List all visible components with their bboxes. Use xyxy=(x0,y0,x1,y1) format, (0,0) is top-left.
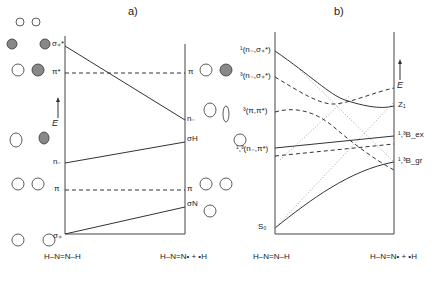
level-pi-star: π* xyxy=(52,68,61,76)
sigma-star-to-n-line xyxy=(65,46,185,120)
singlet-n-sigma-curve xyxy=(275,51,394,107)
triplet-n-sigma-curve xyxy=(275,77,394,104)
panel-b-title: b) xyxy=(334,5,344,17)
correlation-diagram xyxy=(0,0,434,282)
state-Bgr: ¹,³B_gr xyxy=(398,157,422,165)
diabatic-line-3 xyxy=(280,95,350,160)
n-to-sigmaH-line xyxy=(65,142,185,163)
state-S0: S₀ xyxy=(258,223,267,231)
radical-products-b: H–N=N• + •H xyxy=(370,252,417,261)
right-level-sigmaN: σN xyxy=(187,200,198,208)
orbital-sketches xyxy=(7,18,246,246)
diabatic-line-2 xyxy=(300,70,394,162)
level-n-minus: n₋ xyxy=(53,158,61,166)
right-level-pi-top: π xyxy=(188,68,194,76)
ground-state-curve xyxy=(275,162,394,228)
level-pi: π xyxy=(54,185,60,193)
panel-b-energy-label: E xyxy=(397,81,403,90)
state-1-n-sigma: ¹(n₋,σ₊*) xyxy=(240,46,271,54)
level-sigma-plus: σ₊ xyxy=(53,232,62,240)
diabatic-line-1 xyxy=(275,102,394,228)
right-level-sigmaH: σH xyxy=(187,135,198,143)
state-Z1: Z₁ xyxy=(398,101,406,109)
right-level-n: n₋ xyxy=(187,115,195,123)
panel-a-title: a) xyxy=(128,5,138,17)
state-n-pi: ¹,³(n₋,π*) xyxy=(236,145,268,153)
state-3-pi-pi: ³(π,π*) xyxy=(243,107,267,115)
radical-products-a: H–N=N• + •H xyxy=(160,252,207,261)
level-sigma-star: σ₊* xyxy=(52,40,64,48)
state-3-n-sigma: ³(n₋,σ₊*) xyxy=(240,72,271,80)
state-Bex: ¹,³B_ex xyxy=(398,131,424,139)
panel-a-energy-label: E xyxy=(52,119,58,128)
diazene-molecule-b: H–N=N–H xyxy=(253,252,290,261)
right-level-pi: π xyxy=(187,185,193,193)
diazene-molecule-a: H–N=N–H xyxy=(44,252,81,261)
sigma-to-sigmaN-line xyxy=(65,207,185,234)
triplet-pi-pi-curve xyxy=(275,110,394,170)
